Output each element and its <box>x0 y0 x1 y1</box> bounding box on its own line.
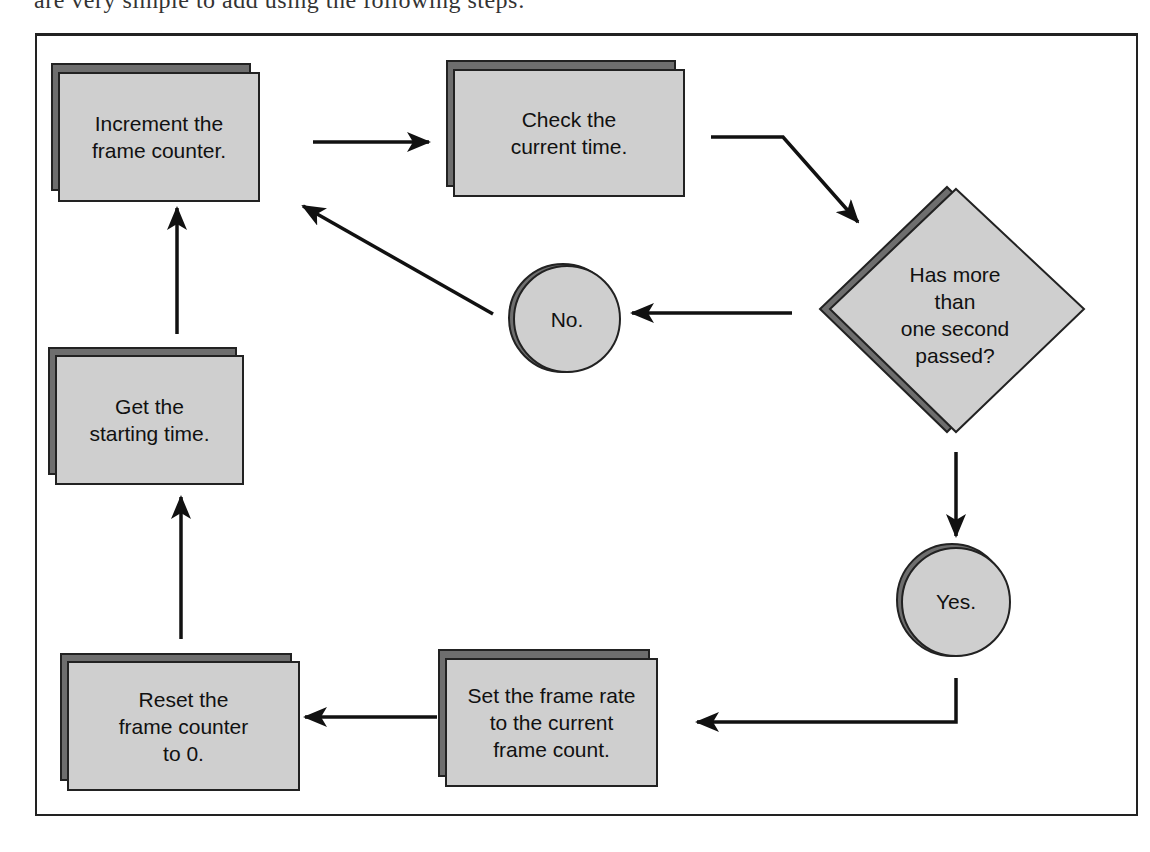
arrow-yes-to-set <box>697 678 956 722</box>
process-increment-counter: Increment the frame counter. <box>51 63 260 202</box>
process-set-frame-rate: Set the frame rate to the current frame … <box>438 649 658 787</box>
process-get-start-time: Get the starting time. <box>48 347 244 485</box>
yes-connector <box>902 548 1010 656</box>
process-reset-text: Reset the frame counter to 0. <box>67 661 300 791</box>
process-check-text: Check the current time. <box>453 69 685 197</box>
process-get-text: Get the starting time. <box>55 355 244 485</box>
process-check-time: Check the current time. <box>446 60 685 197</box>
decision-diamond <box>830 189 1084 432</box>
no-connector <box>514 266 620 372</box>
arrow-check-to-decision <box>711 137 858 222</box>
process-increment-text: Increment the frame counter. <box>58 72 260 202</box>
process-reset-counter: Reset the frame counter to 0. <box>60 653 300 791</box>
arrow-no-to-increment <box>303 206 493 314</box>
process-set-text: Set the frame rate to the current frame … <box>445 658 658 787</box>
